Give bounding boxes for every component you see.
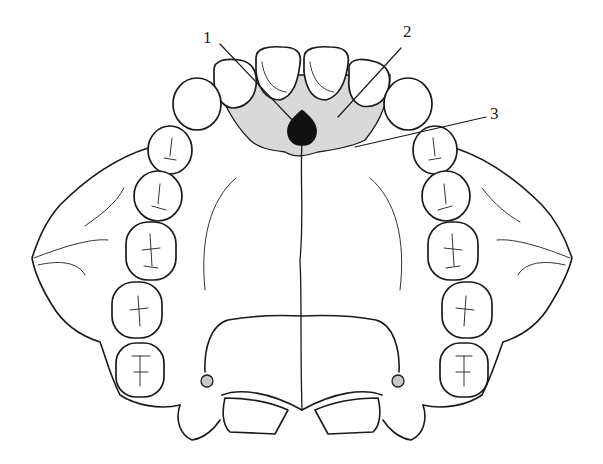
tooth-canine-right	[384, 78, 432, 130]
left-pterygoid-plate	[223, 398, 288, 434]
right-hamulus	[383, 405, 425, 440]
label-2: 2	[403, 22, 412, 42]
right-palatal-curve	[370, 178, 402, 290]
right-cheek-line-2	[518, 262, 565, 275]
right-cheek-line-1	[497, 240, 570, 258]
tooth-molar-2-left	[112, 282, 162, 338]
tooth-premolar-1-left	[148, 126, 192, 174]
palate-diagram	[0, 0, 603, 464]
label-3: 3	[490, 104, 499, 124]
tooth-premolar-2-right	[422, 171, 470, 221]
left-hamulus	[178, 405, 220, 440]
left-greater-palatine-foramen	[201, 375, 213, 387]
left-cheek-line-1	[34, 240, 108, 258]
tooth-molar-2-right	[442, 282, 492, 338]
right-greater-palatine-foramen	[392, 375, 404, 387]
midpalatal-suture	[300, 140, 302, 410]
left-palatal-curve	[204, 178, 236, 290]
tooth-canine-left	[173, 78, 221, 130]
right-pterygoid-plate	[315, 398, 380, 434]
left-cheek-line-2	[38, 262, 85, 275]
right-cheek-line-3	[482, 188, 520, 222]
label-1: 1	[203, 28, 212, 48]
tooth-premolar-1-right	[413, 126, 457, 174]
tooth-premolar-2-left	[134, 171, 182, 221]
left-cheek-line-3	[85, 188, 124, 226]
posterior-palate-border	[205, 316, 399, 372]
